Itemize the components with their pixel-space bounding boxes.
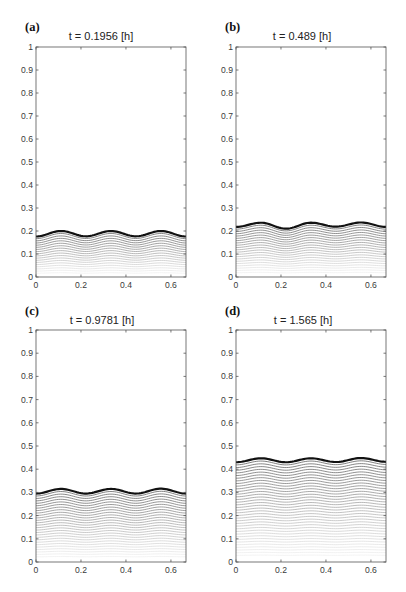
y-tick-label: 0.3 [21, 487, 33, 497]
x-tick-label: 0.6 [365, 565, 377, 575]
y-tick-label: 0.1 [221, 534, 233, 544]
previous-interface-line [36, 494, 186, 499]
y-tick-label: 0.4 [21, 180, 33, 190]
y-tick-label: 0.3 [221, 487, 233, 497]
y-tick-label: 0.5 [21, 441, 33, 451]
previous-interface-line [36, 248, 186, 251]
x-tick-label: 0 [34, 565, 39, 575]
panel-a-axes: 00.10.20.30.40.50.60.70.80.9100.20.40.6 [21, 42, 186, 290]
previous-interface-line [236, 519, 386, 521]
previous-interface-line [36, 543, 186, 544]
previous-interface-line [236, 544, 386, 545]
previous-interface-line [236, 270, 386, 271]
previous-interface-line [36, 551, 186, 552]
panel-b-title: t = 0.489 [h] [273, 31, 331, 42]
previous-interface-line [36, 533, 186, 535]
x-tick-label: 0 [234, 280, 239, 290]
y-tick-label: 0.2 [21, 511, 33, 521]
previous-interface-line [236, 538, 386, 539]
y-tick-label: 0.5 [221, 157, 233, 167]
previous-interface-line [236, 505, 386, 507]
y-tick-label: 1 [228, 42, 233, 52]
previous-interface-line [236, 255, 386, 258]
panel-a-interface-lines [36, 231, 186, 273]
previous-interface-line [236, 547, 386, 548]
previous-interface-line [236, 257, 386, 259]
y-tick-label: 0.6 [21, 418, 33, 428]
previous-interface-line [236, 502, 386, 504]
previous-interface-line [236, 536, 386, 537]
x-tick-label: 0.4 [120, 280, 132, 290]
current-interface-line [236, 458, 386, 462]
previous-interface-line [36, 546, 186, 547]
previous-interface-line [236, 265, 386, 266]
y-tick-label: 0.9 [21, 348, 33, 358]
x-tick-label: 0.2 [275, 280, 287, 290]
y-tick-label: 0.6 [221, 418, 233, 428]
previous-interface-line [36, 541, 186, 542]
y-tick-label: 0.7 [21, 111, 33, 121]
previous-interface-line [36, 523, 186, 526]
y-tick-label: 0.4 [21, 464, 33, 474]
y-tick-label: 0.2 [21, 226, 33, 236]
previous-interface-line [236, 461, 386, 465]
previous-interface-line [36, 554, 186, 555]
y-tick-label: 0.9 [221, 65, 233, 75]
previous-interface-line [36, 243, 186, 247]
y-tick-label: 0.2 [221, 226, 233, 236]
previous-interface-line [236, 508, 386, 510]
y-tick-label: 0 [228, 272, 233, 282]
previous-interface-line [236, 267, 386, 268]
previous-interface-line [236, 260, 386, 262]
x-tick-label: 0.4 [320, 280, 332, 290]
previous-interface-line [36, 246, 186, 250]
previous-interface-line [36, 536, 186, 538]
panel-c-interface-lines [36, 489, 186, 557]
y-tick-label: 1 [28, 42, 33, 52]
previous-interface-line [36, 258, 186, 260]
panel-d-title: t = 1.565 [h] [274, 315, 332, 326]
axes-box [36, 47, 186, 277]
previous-interface-line [236, 527, 386, 528]
previous-interface-line [36, 530, 186, 532]
panel-b-label: (b) [225, 21, 240, 34]
figure-canvas: 00.10.20.30.40.50.60.70.80.9100.20.40.60… [0, 0, 406, 592]
y-tick-label: 0.8 [221, 88, 233, 98]
y-tick-label: 0.9 [21, 65, 33, 75]
previous-interface-line [36, 549, 186, 550]
y-tick-label: 0.2 [221, 511, 233, 521]
previous-interface-line [36, 265, 186, 266]
y-tick-label: 0 [28, 557, 33, 567]
previous-interface-line [36, 273, 186, 274]
y-tick-label: 0.1 [221, 249, 233, 259]
previous-interface-line [236, 511, 386, 513]
previous-interface-line [236, 242, 386, 246]
previous-interface-line [36, 270, 186, 271]
y-tick-label: 0.1 [21, 249, 33, 259]
previous-interface-line [236, 494, 386, 497]
y-tick-label: 0.3 [21, 203, 33, 213]
y-tick-label: 0.4 [221, 180, 233, 190]
panel-c-label: (c) [25, 305, 39, 318]
y-tick-label: 0 [228, 557, 233, 567]
y-tick-label: 0.8 [221, 371, 233, 381]
panel-d-interface-lines [236, 458, 386, 555]
x-tick-label: 0.2 [275, 565, 287, 575]
previous-interface-line [236, 500, 386, 503]
y-tick-label: 0.3 [221, 203, 233, 213]
x-tick-label: 0 [34, 280, 39, 290]
x-tick-label: 0.6 [165, 565, 177, 575]
axes-box [36, 330, 186, 562]
previous-interface-line [236, 497, 386, 500]
y-tick-label: 0.1 [21, 534, 33, 544]
y-tick-label: 0 [28, 272, 33, 282]
previous-interface-line [236, 522, 386, 524]
y-tick-label: 0.4 [221, 464, 233, 474]
x-tick-label: 0.6 [365, 280, 377, 290]
previous-interface-line [236, 533, 386, 534]
previous-interface-line [36, 491, 186, 496]
previous-interface-line [236, 514, 386, 516]
previous-interface-line [36, 260, 186, 262]
panel-b-interface-lines [236, 223, 386, 273]
x-tick-label: 0.2 [75, 565, 87, 575]
